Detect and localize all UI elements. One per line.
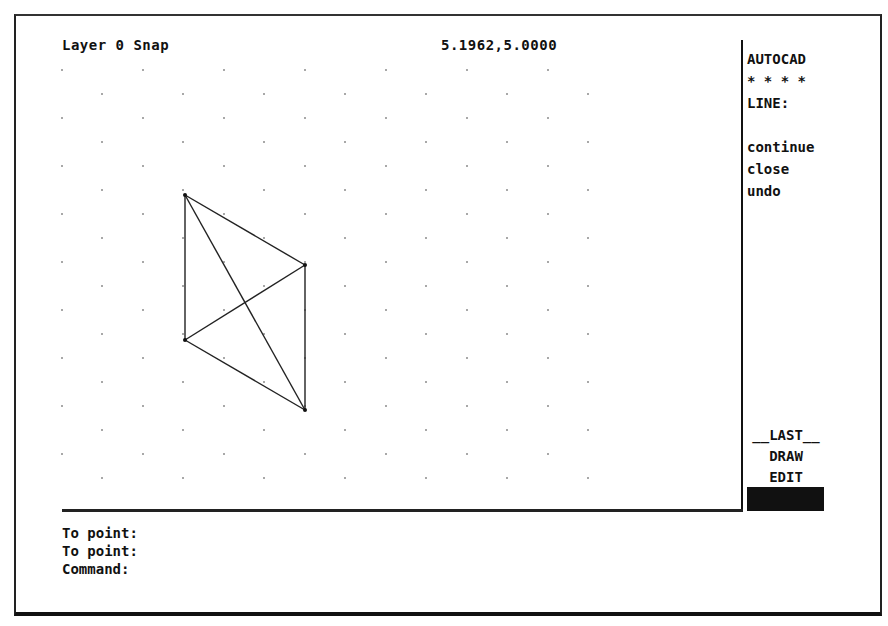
vertex-point[interactable] xyxy=(183,338,187,342)
menu-highlight-block xyxy=(747,487,824,511)
grid-dot xyxy=(385,69,387,71)
grid-dot xyxy=(587,189,589,191)
grid-dot xyxy=(466,165,468,167)
grid-dot xyxy=(263,237,265,239)
grid-dot xyxy=(142,309,144,311)
grid-dot xyxy=(466,213,468,215)
menu-command-line[interactable]: LINE: xyxy=(747,92,814,114)
menu-spacer xyxy=(747,114,814,136)
grid-dot xyxy=(142,405,144,407)
grid-dot xyxy=(344,477,346,479)
grid-dot xyxy=(61,453,63,455)
grid-dot xyxy=(587,477,589,479)
grid-dot xyxy=(182,333,184,335)
grid-dot xyxy=(587,141,589,143)
grid-dot xyxy=(385,405,387,407)
grid-dot xyxy=(61,69,63,71)
grid-dot xyxy=(304,69,306,71)
line-segment[interactable] xyxy=(185,195,305,265)
vertex-point[interactable] xyxy=(183,193,187,197)
grid-dot xyxy=(425,141,427,143)
grid-dot xyxy=(547,453,549,455)
grid-dot xyxy=(142,453,144,455)
vertex-point[interactable] xyxy=(303,408,307,412)
menu-separator xyxy=(741,40,743,511)
grid-dot xyxy=(223,69,225,71)
grid-dot xyxy=(466,69,468,71)
grid-dot xyxy=(142,69,144,71)
grid-dot xyxy=(385,309,387,311)
grid-dot xyxy=(61,405,63,407)
grid-dot xyxy=(61,261,63,263)
grid-dot xyxy=(425,429,427,431)
grid-dot xyxy=(547,405,549,407)
prompt-line-1: To point: xyxy=(62,524,138,542)
grid-dot xyxy=(304,261,306,263)
grid-dot xyxy=(425,477,427,479)
grid-dot xyxy=(101,141,103,143)
menu-header-autocad[interactable]: AUTOCAD xyxy=(747,48,814,70)
menu-last[interactable]: __LAST__ xyxy=(747,425,825,446)
cursor-coordinates: 5.1962,5.0000 xyxy=(441,37,557,53)
grid-dot xyxy=(223,213,225,215)
grid-dot xyxy=(344,429,346,431)
grid-dot xyxy=(263,141,265,143)
drawing-bottom-border xyxy=(62,509,743,512)
grid-dot xyxy=(344,93,346,95)
grid-dot xyxy=(61,357,63,359)
layer-snap-status: Layer 0 Snap xyxy=(62,37,169,53)
grid-dot xyxy=(425,285,427,287)
grid-dot xyxy=(506,93,508,95)
grid-dot xyxy=(263,429,265,431)
line-segment[interactable] xyxy=(185,340,305,410)
grid-dot xyxy=(425,237,427,239)
menu-stars[interactable]: * * * * xyxy=(747,70,814,92)
grid-dot xyxy=(101,237,103,239)
grid-dot xyxy=(385,357,387,359)
grid-dot xyxy=(182,141,184,143)
menu-option-close[interactable]: close xyxy=(747,158,814,180)
screen-menu-bottom: __LAST__ DRAW EDIT xyxy=(747,425,825,488)
grid-dot xyxy=(344,141,346,143)
grid-dot xyxy=(506,237,508,239)
grid-dot xyxy=(304,453,306,455)
grid-dot xyxy=(142,165,144,167)
grid-dot xyxy=(61,165,63,167)
line-segment[interactable] xyxy=(185,265,305,340)
grid-dot xyxy=(344,285,346,287)
grid-dot xyxy=(385,261,387,263)
grid-dot xyxy=(587,381,589,383)
grid-dot xyxy=(547,213,549,215)
grid-dot xyxy=(547,69,549,71)
grid-dot xyxy=(466,309,468,311)
menu-draw[interactable]: DRAW xyxy=(747,446,825,467)
grid-dot xyxy=(142,117,144,119)
grid-dot xyxy=(263,477,265,479)
menu-option-continue[interactable]: continue xyxy=(747,136,814,158)
grid-dot xyxy=(182,285,184,287)
prompt-line-3: Command: xyxy=(62,560,138,578)
menu-option-undo[interactable]: undo xyxy=(747,180,814,202)
grid-dot xyxy=(223,309,225,311)
grid-dot xyxy=(101,381,103,383)
command-prompt-area[interactable]: To point: To point: Command: xyxy=(62,524,138,578)
grid-dot xyxy=(587,285,589,287)
grid-dot xyxy=(506,429,508,431)
grid-dot xyxy=(466,261,468,263)
grid-dot xyxy=(344,237,346,239)
grid-dot xyxy=(304,117,306,119)
grid-dot xyxy=(61,309,63,311)
grid-dot xyxy=(587,333,589,335)
vertex-point[interactable] xyxy=(303,263,307,267)
grid-dot xyxy=(385,165,387,167)
menu-edit[interactable]: EDIT xyxy=(747,467,825,488)
grid-dot xyxy=(223,117,225,119)
grid-dot xyxy=(466,453,468,455)
grid-dot xyxy=(263,93,265,95)
grid-dot xyxy=(61,213,63,215)
grid-dot xyxy=(182,477,184,479)
grid-dot xyxy=(466,357,468,359)
grid-dot xyxy=(61,117,63,119)
grid-dot xyxy=(263,189,265,191)
screen-menu: AUTOCAD * * * * LINE: continue close und… xyxy=(747,48,814,202)
